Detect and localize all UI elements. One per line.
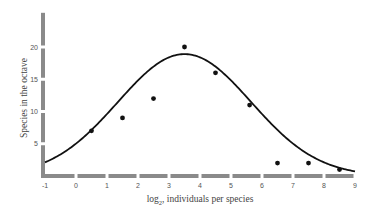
y-axis-segment	[41, 113, 45, 142]
x-axis-segment	[171, 174, 199, 178]
data-point	[247, 103, 252, 108]
x-axis-title-rest: , individuals per species	[162, 194, 254, 204]
x-axis-segment	[140, 174, 168, 178]
x-tick-label: 5	[229, 182, 233, 189]
y-tick-label: 15	[30, 76, 38, 83]
data-point	[151, 96, 156, 101]
data-point	[182, 45, 187, 50]
x-tick-label: 2	[136, 182, 140, 189]
species-abundance-chart: -10123456789 5101520 log2, individuals p…	[0, 0, 377, 212]
y-axis-title: Species in the octave	[19, 58, 29, 138]
x-axis-segment	[233, 174, 261, 178]
data-point	[337, 167, 342, 172]
x-axis-segment	[109, 174, 137, 178]
y-axis-segment	[41, 13, 45, 46]
x-tick-label: -1	[42, 182, 48, 189]
x-tick-label: 4	[198, 182, 202, 189]
y-tick-label: 10	[30, 108, 38, 115]
x-axis-title: log2, individuals per species	[147, 194, 254, 206]
data-point	[89, 128, 94, 133]
x-tick-label: 3	[167, 182, 171, 189]
x-axis-segment	[202, 174, 230, 178]
x-axis-title-log: log	[147, 194, 159, 204]
data-points	[89, 45, 342, 172]
x-axis-segment	[295, 174, 323, 178]
x-tick-label: 7	[291, 182, 295, 189]
x-tick-label: 0	[74, 182, 78, 189]
data-point	[275, 161, 280, 166]
y-tick-label: 20	[30, 44, 38, 51]
y-axis-segment	[41, 81, 45, 110]
y-axis-segment	[41, 49, 45, 78]
x-axis-segment	[326, 174, 354, 178]
x-tick-label: 8	[322, 182, 326, 189]
y-axis-tick-labels: 5101520	[30, 44, 38, 148]
data-point	[213, 70, 218, 75]
x-tick-label: 6	[260, 182, 264, 189]
x-axis-segment	[78, 174, 106, 178]
fitted-curve	[45, 54, 355, 171]
x-axis-tick-labels: -10123456789	[42, 182, 357, 189]
x-tick-label: 1	[105, 182, 109, 189]
x-tick-label: 9	[353, 182, 357, 189]
x-axis-segment	[264, 174, 292, 178]
y-axis-segment	[41, 145, 45, 178]
data-point	[120, 116, 125, 121]
data-point	[306, 161, 311, 166]
y-tick-label: 5	[34, 140, 38, 147]
x-axis-segment	[42, 174, 75, 178]
